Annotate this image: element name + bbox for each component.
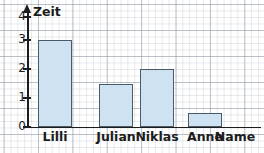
bar-lilli bbox=[38, 40, 72, 128]
y-tick-label-1: 1 bbox=[10, 91, 26, 103]
x-axis-title: Name bbox=[208, 131, 262, 144]
y-tick-label-3: 3 bbox=[10, 33, 26, 45]
y-axis-line bbox=[27, 11, 29, 128]
y-tick-label-2: 2 bbox=[10, 62, 26, 74]
bar-niklas bbox=[140, 69, 174, 127]
y-tick-label-0: 0 bbox=[10, 120, 26, 132]
bar-julian bbox=[99, 84, 133, 128]
bar-chart: Zeit 0 1 2 3 4 Lilli Julian Niklas Anne … bbox=[0, 0, 264, 153]
y-axis-title: Zeit bbox=[33, 6, 61, 19]
y-tick-label-4: 4 bbox=[10, 10, 26, 22]
bar-anne bbox=[188, 113, 222, 128]
x-label-lilli: Lilli bbox=[25, 131, 85, 144]
